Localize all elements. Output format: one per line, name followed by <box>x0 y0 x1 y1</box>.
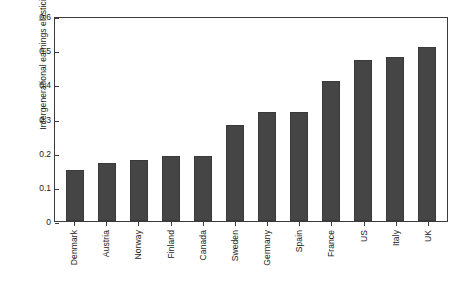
x-tick-label: UK <box>423 230 433 242</box>
bar <box>226 125 244 221</box>
bar <box>194 156 212 221</box>
bar-slot <box>187 18 219 221</box>
x-tick-label: Italy <box>391 230 401 246</box>
plot-area: 00.10.20.30.40.50.6 <box>54 17 448 222</box>
x-tick-slot: Italy <box>380 222 412 288</box>
bar <box>66 170 84 221</box>
x-tick-mark <box>428 222 429 226</box>
x-tick-label: Spain <box>294 230 304 252</box>
x-tick-mark <box>299 222 300 226</box>
bar-slot <box>251 18 283 221</box>
bar-slot <box>91 18 123 221</box>
x-tick-slot: Austria <box>90 222 122 288</box>
x-tick-mark <box>235 222 236 226</box>
bar-slot <box>347 18 379 221</box>
bar <box>98 163 116 221</box>
x-tick-mark <box>74 222 75 226</box>
x-tick-slot: Germany <box>251 222 283 288</box>
x-tick-slot: UK <box>412 222 444 288</box>
bar-series <box>55 18 447 221</box>
bar <box>418 47 436 221</box>
y-tick-label: 0.3 <box>11 115 51 126</box>
x-tick-label: Finland <box>166 230 176 259</box>
bar-slot <box>219 18 251 221</box>
bar <box>290 112 308 221</box>
x-tick-slot: Denmark <box>58 222 90 288</box>
x-tick-slot: France <box>315 222 347 288</box>
x-tick-label: Austria <box>101 230 111 257</box>
y-tick-label: 0.6 <box>11 12 51 23</box>
x-tick-label: France <box>326 230 336 257</box>
x-tick-mark <box>138 222 139 226</box>
x-tick-mark <box>267 222 268 226</box>
x-tick-mark <box>203 222 204 226</box>
bar <box>258 112 276 221</box>
y-tick-label: 0.2 <box>11 149 51 160</box>
x-tick-slot: Spain <box>283 222 315 288</box>
x-tick-slot: Finland <box>155 222 187 288</box>
bar-slot <box>123 18 155 221</box>
x-axis-ticks: DenmarkAustriaNorwayFinlandCanadaSwedenG… <box>54 222 448 288</box>
x-tick-slot: US <box>348 222 380 288</box>
x-tick-mark <box>331 222 332 226</box>
bar-slot <box>283 18 315 221</box>
bar <box>386 57 404 221</box>
x-tick-slot: Norway <box>122 222 154 288</box>
x-tick-slot: Canada <box>187 222 219 288</box>
bar-slot <box>155 18 187 221</box>
bar <box>130 160 148 222</box>
bar <box>322 81 340 221</box>
bar <box>162 156 180 221</box>
bar-chart-figure: Intergenerational earnings elasticity 00… <box>0 0 463 288</box>
x-tick-slot: Sweden <box>219 222 251 288</box>
bar <box>354 60 372 221</box>
x-tick-label: US <box>359 230 369 242</box>
x-tick-label: Denmark <box>69 230 79 265</box>
x-tick-label: Sweden <box>230 230 240 261</box>
x-tick-label: Norway <box>133 230 143 259</box>
bar-slot <box>59 18 91 221</box>
x-tick-mark <box>396 222 397 226</box>
x-tick-mark <box>171 222 172 226</box>
x-tick-mark <box>106 222 107 226</box>
y-tick-label: 0 <box>11 217 51 228</box>
bar-slot <box>411 18 443 221</box>
y-tick-label: 0.5 <box>11 46 51 57</box>
x-tick-label: Germany <box>262 230 272 266</box>
y-tick-label: 0.4 <box>11 80 51 91</box>
bar-slot <box>379 18 411 221</box>
x-tick-label: Canada <box>198 230 208 260</box>
y-tick-label: 0.1 <box>11 183 51 194</box>
x-tick-mark <box>364 222 365 226</box>
bar-slot <box>315 18 347 221</box>
